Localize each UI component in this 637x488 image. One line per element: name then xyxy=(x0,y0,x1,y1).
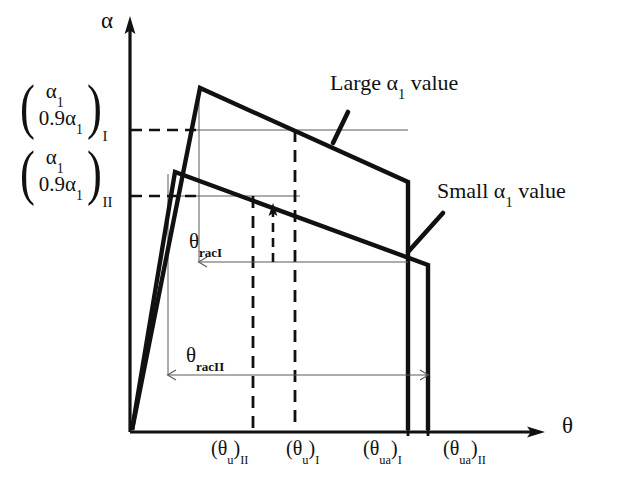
stack-numerator-level-I: α1 xyxy=(46,80,76,107)
right-paren-level-II: ) xyxy=(87,147,102,198)
stack-column-level-I: α1 0.9α1 xyxy=(38,80,84,133)
dimension-label-theta-racII: θracII xyxy=(186,345,224,369)
dimension-label-theta-racI: θracI xyxy=(189,231,222,255)
left-paren-level-I: ( xyxy=(20,81,35,132)
stack-denominator-level-II: 0.9α1 xyxy=(39,173,83,200)
callout-large-alpha-label: Large α1 value xyxy=(330,72,458,98)
stack-column-level-II: α1 0.9α1 xyxy=(38,146,84,199)
callout-large-alpha-leader xyxy=(333,112,348,143)
callout-small-alpha-label: Small α1 value xyxy=(437,180,566,206)
right-paren-level-I: ) xyxy=(87,81,102,132)
y-tick-label-level-I: ( α1 0.9α1 ) I xyxy=(17,80,110,133)
x-tick-label-theta-ua-I: (θua)I xyxy=(363,438,402,462)
x-tick-label-theta-u-II: (θu)II xyxy=(211,438,248,462)
left-paren-level-II: ( xyxy=(20,147,35,198)
stack-numerator-level-II: α1 xyxy=(46,146,76,173)
x-tick-label-theta-ua-II: (θua)II xyxy=(443,438,486,462)
callout-small-alpha-leader xyxy=(408,213,443,252)
x-axis-label: θ xyxy=(562,414,573,437)
dimension-theta-racI xyxy=(199,257,409,267)
x-tick-label-theta-u-I: (θu)I xyxy=(286,438,319,462)
stack-group-subscript-level-II: II xyxy=(103,194,113,211)
y-axis-label: α xyxy=(101,9,113,32)
callout-leaders xyxy=(333,112,443,252)
figure-canvas: α θ ( α1 0.9α1 ) I ( α1 0.9α1 ) II Large… xyxy=(0,0,637,488)
stack-denominator-level-I: 0.9α1 xyxy=(39,107,83,134)
stack-group-subscript-level-I: I xyxy=(103,128,108,145)
tick-dashed-verticals xyxy=(253,130,428,428)
y-tick-label-level-II: ( α1 0.9α1 ) II xyxy=(17,146,115,199)
